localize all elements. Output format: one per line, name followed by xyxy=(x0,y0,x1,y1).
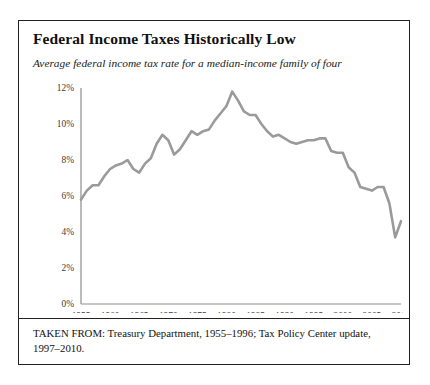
x-tick-label: 1975 xyxy=(188,311,207,313)
y-tick-label: 10% xyxy=(57,119,74,129)
y-axis-tick-labels: 0%2%4%6%8%10%12% xyxy=(57,83,74,309)
y-tick-label: 12% xyxy=(57,83,74,93)
x-tick-label: 1990 xyxy=(275,311,294,313)
figure-panel: Federal Income Taxes Historically Low Av… xyxy=(18,20,410,365)
caption-divider xyxy=(19,318,409,319)
source-caption: TAKEN FROM: Treasury Department, 1955–19… xyxy=(33,326,397,355)
x-tick-label: 2005 xyxy=(363,311,382,313)
x-tick-label: 2010 xyxy=(392,311,403,313)
page-title: Federal Income Taxes Historically Low xyxy=(33,30,296,48)
y-tick-label: 2% xyxy=(62,263,75,273)
x-tick-label: 1985 xyxy=(246,311,265,313)
x-tick-label: 1980 xyxy=(217,311,236,313)
y-tick-label: 4% xyxy=(62,227,75,237)
x-tick-label: 1960 xyxy=(101,311,120,313)
y-tick-label: 8% xyxy=(62,155,75,165)
data-series-line xyxy=(81,92,401,238)
x-tick-label: 1965 xyxy=(130,311,149,313)
line-chart: 0%2%4%6%8%10%12% 19551960196519701975198… xyxy=(27,83,403,313)
chart-canvas: 0%2%4%6%8%10%12% 19551960196519701975198… xyxy=(27,83,403,313)
chart-subtitle: Average federal income tax rate for a me… xyxy=(33,57,342,69)
x-axis-tick-labels: 1955196019651970197519801985199019952000… xyxy=(72,311,403,313)
x-tick-label: 1995 xyxy=(304,311,323,313)
x-tick-label: 1955 xyxy=(72,311,91,313)
y-tick-label: 0% xyxy=(62,299,75,309)
y-tick-label: 6% xyxy=(62,191,75,201)
x-tick-label: 1970 xyxy=(159,311,178,313)
x-tick-label: 2000 xyxy=(333,311,352,313)
